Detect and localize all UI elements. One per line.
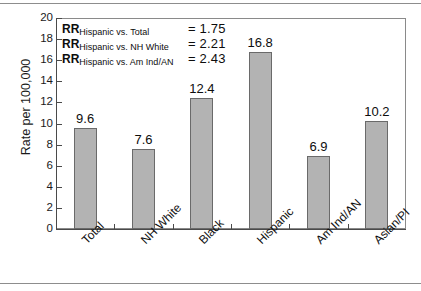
bar [132,149,155,229]
bar [249,52,272,229]
x-axis-tick [114,224,115,229]
annotation-label: RRHispanic vs. Total [62,23,188,37]
y-axis-tick [57,187,62,188]
x-axis-tick [173,224,174,229]
annotation-label: RRHispanic vs. Am Ind/AN [62,53,188,67]
bar [190,98,213,229]
x-axis-tick [289,224,290,229]
y-axis-tick-label: 2 [13,202,53,214]
bar-value-label: 9.6 [57,112,113,125]
chart-figure: Rate per 100,000 20181614121086420 9.67.… [0,0,421,291]
annotation-subscript: Hispanic vs. Total [79,27,149,37]
y-axis-tick-label: 0 [13,223,53,235]
bar [74,128,97,229]
y-axis-tick [57,166,62,167]
y-axis-tick [57,81,62,82]
annotation-row: RRHispanic vs. Total = 1.75 [62,22,226,37]
ratio-annotations: RRHispanic vs. Total = 1.75 RRHispanic v… [62,22,226,67]
y-axis-tick-label: 8 [13,139,53,151]
annotation-value: = 2.21 [188,37,226,50]
y-axis-tick [57,102,62,103]
y-axis-tick [57,208,62,209]
bottom-rule [0,283,421,284]
y-axis-tick-label: 20 [13,12,53,24]
annotation-row: RRHispanic vs. Am Ind/AN = 2.43 [62,52,226,67]
y-axis-tick-label: 12 [13,96,53,108]
annotation-row: RRHispanic vs. NH White = 2.21 [62,37,226,52]
y-axis-tick-label: 10 [13,118,53,130]
y-axis-tick-label: 6 [13,160,53,172]
x-axis-tick [231,224,232,229]
bar-value-label: 12.4 [174,82,230,95]
annotation-prefix: RR [62,52,79,66]
annotation-value: = 1.75 [188,22,226,35]
y-axis-tick [57,145,62,146]
y-axis-tick-label: 18 [13,33,53,45]
y-axis-tick-label: 16 [13,54,53,66]
bar-value-label: 10.2 [349,105,405,118]
annotation-value: = 2.43 [188,52,226,65]
y-axis-tick [57,18,62,19]
bar-value-label: 6.9 [291,140,347,153]
annotation-prefix: RR [62,22,79,36]
annotation-prefix: RR [62,37,79,51]
top-rule [0,3,421,4]
annotation-subscript: Hispanic vs. NH White [79,42,169,52]
bar [307,156,330,229]
bar-value-label: 16.8 [232,36,288,49]
x-axis-line [56,229,406,230]
annotation-label: RRHispanic vs. NH White [62,38,188,52]
annotation-subscript: Hispanic vs. Am Ind/AN [79,57,173,67]
bar-value-label: 7.6 [116,133,172,146]
y-axis-tick-label: 4 [13,181,53,193]
x-axis-tick [348,224,349,229]
bar [365,121,388,229]
y-axis-tick-label: 14 [13,75,53,87]
